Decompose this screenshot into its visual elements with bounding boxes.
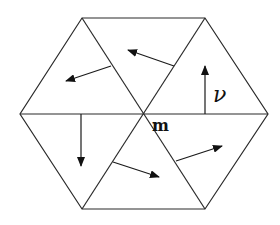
arrow-upper-left — [66, 66, 111, 81]
triangle-edges — [20, 18, 268, 209]
hexagon-diagram: m ν — [0, 0, 280, 225]
arrow-lower-right — [176, 146, 222, 161]
label-nu: ν — [213, 82, 226, 107]
label-m: m — [152, 116, 169, 135]
arrow-top — [128, 50, 174, 66]
arrow-bottom — [113, 162, 159, 177]
